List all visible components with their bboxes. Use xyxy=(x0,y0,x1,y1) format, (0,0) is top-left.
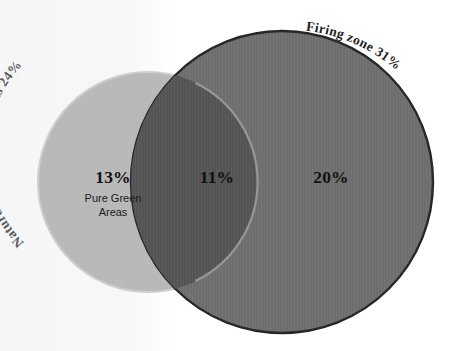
venn-diagram: Natural reserves and parks 24% Firing zo… xyxy=(0,0,467,351)
set-label-natural-reserves-and-parks: Natural reserves and parks 24% xyxy=(0,57,26,251)
venn-svg: Natural reserves and parks 24% Firing zo… xyxy=(0,0,467,351)
